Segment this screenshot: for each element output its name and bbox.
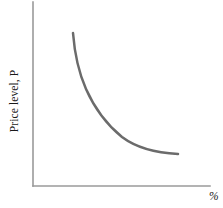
chart-figure: Price level, P % [0,0,223,208]
demand-curve-path [73,33,178,154]
y-axis-label: Price level, P [8,70,20,132]
x-axis-label: % [209,190,219,202]
chart-plot-area [0,0,223,208]
